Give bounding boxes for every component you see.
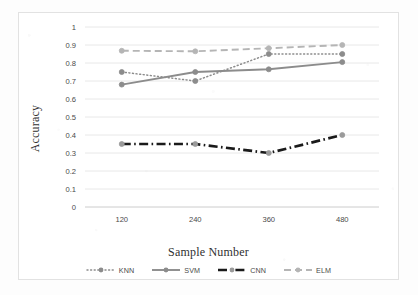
data-point-elm-360 bbox=[266, 46, 271, 51]
data-point-elm-480 bbox=[340, 43, 345, 48]
data-point-elm-120 bbox=[119, 48, 124, 53]
legend-item-knn[interactable]: KNN bbox=[86, 265, 134, 275]
figure-container: 00.10.20.30.40.50.60.70.80.9112024036048… bbox=[0, 0, 418, 295]
legend-swatch-elm bbox=[283, 265, 313, 275]
data-point-knn-120 bbox=[119, 70, 124, 75]
data-point-svm-480 bbox=[340, 60, 345, 65]
chart-plot-frame: 00.10.20.30.40.50.60.70.80.9112024036048… bbox=[18, 12, 399, 280]
x-axis-title: Sample Number bbox=[19, 245, 398, 260]
legend-label-cnn: CNN bbox=[250, 266, 266, 275]
data-point-knn-240 bbox=[193, 79, 198, 84]
y-axis-tick-label: 0 bbox=[72, 203, 76, 212]
series-line-cnn bbox=[122, 135, 343, 153]
data-point-cnn-360 bbox=[266, 151, 271, 156]
legend-item-elm[interactable]: ELM bbox=[283, 265, 331, 275]
y-axis-tick-label: 0.2 bbox=[65, 167, 76, 176]
data-point-svm-120 bbox=[119, 82, 124, 87]
chart-legend: KNNSVMCNNELM bbox=[19, 265, 398, 275]
legend-swatch-knn bbox=[86, 265, 116, 275]
data-point-knn-360 bbox=[266, 52, 271, 57]
x-axis-tick-label: 360 bbox=[262, 215, 275, 224]
series-line-knn bbox=[122, 54, 343, 81]
y-axis-tick-label: 0.3 bbox=[65, 149, 76, 158]
legend-label-knn: KNN bbox=[119, 266, 134, 275]
legend-label-elm: ELM bbox=[316, 266, 331, 275]
legend-item-svm[interactable]: SVM bbox=[151, 265, 200, 275]
x-axis-tick-label: 480 bbox=[336, 215, 349, 224]
y-axis-title: Accuracy bbox=[28, 59, 43, 199]
legend-item-cnn[interactable]: CNN bbox=[217, 265, 266, 275]
legend-label-svm: SVM bbox=[184, 266, 200, 275]
x-axis-tick-label: 240 bbox=[189, 215, 202, 224]
data-point-elm-240 bbox=[193, 49, 198, 54]
data-point-svm-360 bbox=[266, 67, 271, 72]
y-axis-tick-label: 0.8 bbox=[65, 59, 76, 68]
x-axis-tick-label: 120 bbox=[115, 215, 128, 224]
data-point-cnn-120 bbox=[119, 142, 124, 147]
legend-swatch-svm bbox=[151, 265, 181, 275]
y-axis-tick-label: 1 bbox=[72, 23, 76, 32]
y-axis-tick-label: 0.9 bbox=[65, 41, 76, 50]
data-point-svm-240 bbox=[193, 70, 198, 75]
data-point-knn-480 bbox=[340, 52, 345, 57]
y-axis-tick-label: 0.6 bbox=[65, 95, 76, 104]
line-chart-canvas: 00.10.20.30.40.50.60.70.80.9112024036048… bbox=[19, 13, 398, 279]
legend-swatch-cnn bbox=[217, 265, 247, 275]
y-axis-tick-label: 0.7 bbox=[65, 77, 76, 86]
y-axis-tick-label: 0.4 bbox=[65, 131, 76, 140]
series-line-elm bbox=[122, 45, 343, 51]
data-point-cnn-480 bbox=[340, 133, 345, 138]
data-point-cnn-240 bbox=[193, 142, 198, 147]
y-axis-tick-label: 0.5 bbox=[65, 113, 76, 122]
y-axis-tick-label: 0.1 bbox=[65, 185, 76, 194]
